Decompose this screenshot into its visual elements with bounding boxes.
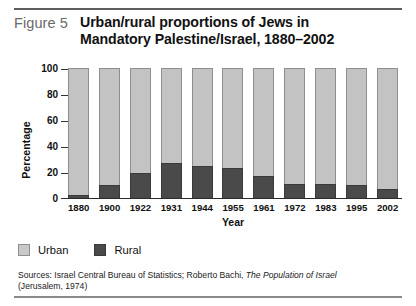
bar-segment-urban-1944	[192, 68, 213, 165]
bar-segment-urban-1972	[284, 68, 305, 183]
bar-segment-urban-1995	[346, 68, 367, 185]
bar-1955	[222, 68, 243, 198]
y-tick-80: 80	[36, 89, 68, 100]
bar-1900	[99, 68, 120, 198]
figure-panel: Figure 5 Urban/rural proportions of Jews…	[0, 0, 416, 306]
legend-label-urban: Urban	[38, 244, 68, 256]
bar-segment-rural-1955	[222, 168, 243, 198]
x-tick-label-1880: 1880	[68, 202, 89, 213]
bar-1880	[68, 68, 89, 198]
bar-segment-rural-1983	[315, 184, 336, 198]
bar-segment-urban-1961	[253, 68, 274, 176]
source-note: Sources: Israel Central Bureau of Statis…	[18, 270, 402, 293]
bar-segment-rural-2002	[377, 189, 398, 198]
x-tick-label-1983: 1983	[315, 202, 336, 213]
x-tick-label-1955: 1955	[222, 202, 243, 213]
bar-segment-urban-1922	[130, 68, 151, 173]
bar-1944	[192, 68, 213, 198]
x-tick-label-1972: 1972	[284, 202, 305, 213]
bar-segment-urban-1880	[68, 68, 89, 195]
bar-segment-rural-1922	[130, 173, 151, 198]
y-tick-100: 100	[36, 63, 68, 74]
bar-1983	[315, 68, 336, 198]
bar-1995	[346, 68, 367, 198]
y-tick-20-dash	[61, 173, 68, 174]
bar-segment-urban-1983	[315, 68, 336, 183]
y-tick-20: 20	[36, 167, 68, 178]
y-tick-60-dash	[61, 121, 68, 122]
bar-1961	[253, 68, 274, 198]
y-tick-20-label: 20	[36, 167, 58, 178]
bar-chart: Percentage 100 80 60 40 20 0 18801900192…	[0, 60, 416, 240]
legend-item-rural: Rural	[94, 244, 141, 256]
source-text-pre: Sources: Israel Central Bureau of Statis…	[18, 270, 246, 280]
y-tick-60-label: 60	[36, 115, 58, 126]
bar-segment-urban-1931	[161, 68, 182, 163]
figure-title: Urban/rural proportions of Jews in Manda…	[80, 14, 334, 49]
figure-title-line-1: Urban/rural proportions of Jews in	[80, 14, 334, 31]
bar-1972	[284, 68, 305, 198]
bar-segment-rural-1961	[253, 176, 274, 198]
legend-swatch-urban-icon	[18, 244, 30, 256]
y-tick-100-dash	[61, 69, 68, 70]
legend-label-rural: Rural	[114, 244, 141, 256]
bar-segment-urban-2002	[377, 68, 398, 189]
bar-segment-rural-1900	[99, 185, 120, 198]
chart-legend: Urban Rural	[18, 244, 167, 256]
x-tick-label-1900: 1900	[99, 202, 120, 213]
y-tick-80-label: 80	[36, 89, 58, 100]
figure-header: Figure 5 Urban/rural proportions of Jews…	[14, 14, 406, 54]
bar-series-container	[68, 68, 398, 198]
bar-segment-rural-1944	[192, 166, 213, 198]
x-axis-tick-labels: 1880190019221931194419551961197219831995…	[68, 202, 398, 213]
figure-number: Figure 5	[14, 14, 68, 31]
bar-segment-rural-1972	[284, 184, 305, 198]
x-tick-label-1995: 1995	[346, 202, 367, 213]
top-divider	[14, 8, 402, 10]
x-tick-label-1944: 1944	[192, 202, 213, 213]
y-tick-40-dash	[61, 147, 68, 148]
legend-item-urban: Urban	[18, 244, 68, 256]
plot-area	[68, 68, 398, 198]
source-text-italic: The Population of Israel	[246, 270, 337, 280]
x-tick-label-1931: 1931	[161, 202, 182, 213]
y-tick-0-label: 0	[36, 193, 58, 204]
x-tick-label-2002: 2002	[377, 202, 398, 213]
x-tick-label-1922: 1922	[130, 202, 151, 213]
y-tick-40-label: 40	[36, 141, 58, 152]
bar-1931	[161, 68, 182, 198]
x-tick-label-1961: 1961	[253, 202, 274, 213]
bar-segment-urban-1900	[99, 68, 120, 185]
bar-segment-urban-1955	[222, 68, 243, 168]
bar-segment-rural-1931	[161, 163, 182, 198]
x-axis-title: Year	[68, 216, 398, 228]
figure-title-line-2: Mandatory Palestine/Israel, 1880–2002	[80, 31, 334, 48]
source-text-line-2: (Jerusalem, 1974)	[18, 281, 87, 291]
y-axis-ticks: 100 80 60 40 20 0	[28, 60, 68, 200]
y-tick-40: 40	[36, 141, 68, 152]
bottom-divider	[14, 296, 402, 298]
bar-2002	[377, 68, 398, 198]
y-tick-80-dash	[61, 95, 68, 96]
y-tick-60: 60	[36, 115, 68, 126]
legend-swatch-rural-icon	[94, 244, 106, 256]
bar-1922	[130, 68, 151, 198]
y-tick-100-label: 100	[36, 63, 58, 74]
bar-segment-rural-1995	[346, 185, 367, 198]
x-axis-line	[64, 198, 402, 199]
